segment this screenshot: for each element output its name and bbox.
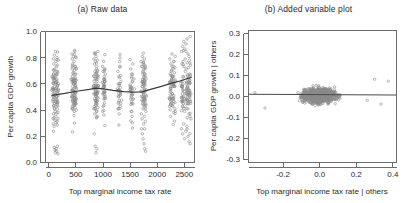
data-point (143, 128, 146, 131)
data-point (170, 63, 173, 66)
data-point (93, 80, 96, 83)
data-point (169, 58, 172, 61)
panel-a-xtick-3: 1500 (121, 170, 139, 179)
data-point (181, 45, 184, 48)
panel-a-ytick-0: 0.0 (26, 158, 38, 167)
data-point (173, 120, 176, 123)
data-point (97, 50, 100, 53)
data-point (186, 38, 189, 41)
data-point (55, 115, 58, 118)
data-point (183, 40, 186, 43)
data-point (71, 131, 74, 134)
data-point (141, 118, 144, 121)
data-point (366, 99, 368, 101)
data-point (143, 58, 146, 61)
panel-a-ytick-4: 0.8 (26, 54, 38, 63)
data-point (182, 106, 185, 109)
data-point (75, 109, 78, 112)
data-point (101, 65, 104, 68)
panel-b-xtick-0: -0.2 (276, 170, 290, 179)
panel-b-ylabel: Per capita GDP growth | others (209, 41, 218, 151)
data-point (174, 55, 177, 58)
data-point (298, 99, 300, 101)
data-point (142, 52, 145, 55)
panel-a-ytick-1: 0.2 (26, 132, 38, 141)
data-point (132, 63, 135, 66)
data-point (53, 125, 56, 128)
data-point (188, 55, 191, 58)
panel-b-fit-line (249, 94, 397, 95)
data-point (173, 71, 176, 74)
panel-a-xlabel: Top marginal income tax rate (69, 187, 172, 196)
data-point (189, 35, 192, 38)
data-point (140, 113, 143, 116)
data-point (180, 110, 183, 113)
data-point (52, 113, 55, 116)
data-point (334, 103, 336, 105)
data-point (169, 115, 172, 118)
data-point (131, 115, 134, 118)
data-point (174, 108, 177, 111)
data-point (186, 61, 189, 64)
data-point (184, 58, 187, 61)
panel-a-ytick-3: 0.6 (26, 80, 38, 89)
data-point (183, 107, 186, 110)
panel-b-xtick-2: 0.2 (351, 170, 363, 179)
data-point (312, 84, 314, 86)
panel-b-ytick-2: -0.1 (226, 113, 240, 122)
data-point (188, 59, 191, 62)
data-point (104, 124, 107, 127)
data-point (190, 118, 193, 121)
data-point (183, 110, 186, 113)
data-point (102, 60, 105, 63)
panel-a-xtick-0: 0 (47, 170, 52, 179)
data-point (333, 86, 335, 88)
panel-b-points (254, 78, 390, 109)
data-point (144, 148, 147, 151)
panel-b-ytick-6: 0.3 (229, 29, 241, 38)
data-point (56, 108, 59, 111)
panel-b-xlabel: Top marginal income tax rate | others (256, 187, 387, 196)
data-point (189, 115, 192, 118)
data-point (93, 133, 96, 136)
panel-added-variable: (b) Added variable plot -0.3 -0.2 -0.1 0… (206, 0, 411, 203)
data-point (387, 80, 389, 82)
data-point (117, 70, 120, 73)
data-point (119, 53, 122, 56)
data-point (140, 128, 143, 131)
data-point (118, 60, 121, 63)
panel-a-ytick-2: 0.4 (26, 106, 38, 115)
panel-a-plot: 0.0 0.2 0.4 0.6 0.8 1.0 0 500 1000 1500 (0, 0, 205, 203)
data-point (53, 63, 56, 66)
data-point (118, 113, 121, 116)
data-point (297, 92, 299, 94)
panel-b-ytick-4: 0.1 (229, 71, 241, 80)
data-point (373, 78, 375, 80)
data-point (57, 153, 60, 156)
data-point (104, 73, 107, 76)
data-point (184, 138, 187, 141)
panel-b-x-axis: -0.2 0.0 0.2 0.4 (249, 163, 399, 180)
data-point (142, 123, 145, 126)
data-point (143, 115, 146, 118)
data-point (185, 43, 188, 46)
data-point (187, 135, 190, 138)
data-point (181, 92, 184, 95)
data-point (187, 66, 190, 69)
data-point (141, 133, 144, 136)
panel-raw-data: (a) Raw data 0.0 0.2 0.4 0.6 0.8 1.0 (0, 0, 205, 203)
panel-b-ytick-3: 0.0 (229, 92, 241, 101)
data-point (185, 50, 188, 53)
panel-b-xtick-1: 0.0 (314, 170, 326, 179)
panel-a-xtick-5: 2500 (175, 170, 193, 179)
data-point (103, 102, 106, 105)
panel-a-ylabel: Per capita GDP growth (6, 56, 15, 138)
data-point (145, 110, 148, 113)
data-point (186, 125, 189, 128)
data-point (104, 53, 107, 56)
data-point (71, 75, 74, 78)
panel-a-points (50, 35, 192, 155)
data-point (143, 143, 146, 146)
panel-a-xtick-1: 500 (69, 170, 83, 179)
data-point (144, 120, 147, 123)
